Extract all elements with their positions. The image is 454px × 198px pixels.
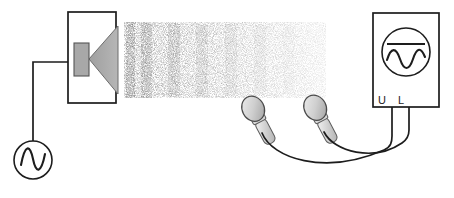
oscilloscope: U L	[373, 13, 439, 107]
terminal-u-label: U	[378, 94, 386, 106]
loudspeaker-box	[68, 12, 118, 103]
speaker-magnet	[74, 43, 89, 76]
microphone-left	[237, 92, 281, 148]
wire-generator-speaker	[33, 62, 68, 141]
sound-wave-field	[124, 22, 326, 98]
diagram-svg: U L	[0, 0, 454, 198]
cable-mic-right-to-l	[324, 107, 409, 153]
oscilloscope-screen	[382, 28, 430, 76]
signal-generator	[14, 141, 52, 179]
figure-canvas: U L	[0, 0, 454, 198]
terminal-l-label: L	[398, 94, 404, 106]
microphone-right	[299, 91, 343, 147]
